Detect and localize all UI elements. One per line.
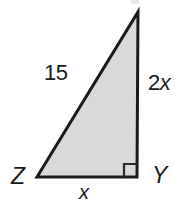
geometry-figure: 15 2x x Z Y (0, 0, 179, 205)
vertical-leg-length-label: 2x (148, 72, 170, 94)
vertex-label-y: Y (152, 164, 167, 187)
base-leg-length-label: x (79, 182, 89, 202)
vertical-leg-coefficient: 2 (148, 70, 160, 95)
vertical-leg-variable: x (160, 70, 171, 95)
triangle-shape (37, 12, 138, 177)
hypotenuse-length-label: 15 (44, 62, 67, 84)
vertex-label-z: Z (11, 165, 25, 188)
